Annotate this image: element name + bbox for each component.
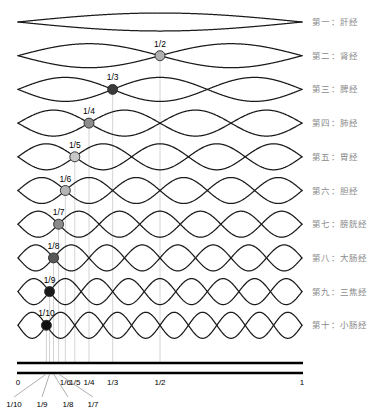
- axis-tick-label-1: 1: [300, 378, 305, 387]
- node-fraction-label-1-4: 1/4: [83, 106, 95, 116]
- node-dot-1-7[interactable]: [54, 219, 64, 229]
- axis-tick-label-0: 0: [16, 378, 21, 387]
- meridian-label-1: 第一：肝经: [312, 18, 359, 27]
- wave-row-1: [18, 13, 302, 31]
- wave-curve-1-upper: [18, 13, 302, 22]
- node-fraction-label-1-8: 1/8: [48, 241, 60, 251]
- node-fraction-label-1-2: 1/2: [154, 39, 166, 49]
- axis-tick-label-1-3: 1/3: [107, 378, 119, 387]
- axis-tick-label-1-4: 1/4: [83, 378, 95, 387]
- node-dot-1-8[interactable]: [49, 253, 59, 263]
- axis-tick-label-1-9: 1/9: [36, 400, 48, 409]
- axis-tick-label-1-7: 1/7: [87, 400, 99, 409]
- meridian-label-5: 第五：胃经: [312, 153, 359, 162]
- node-dot-1-10[interactable]: [41, 320, 51, 330]
- node-dot-1-5[interactable]: [70, 152, 80, 162]
- axis-tick-label-1-2: 1/2: [154, 378, 166, 387]
- meridian-label-7: 第七：膀胱经: [312, 220, 368, 229]
- meridian-label-3: 第三：脾经: [312, 85, 359, 94]
- node-fraction-label-1-5: 1/5: [69, 140, 81, 150]
- node-fraction-label-1-6: 1/6: [59, 174, 71, 184]
- node-fraction-label-1-9: 1/9: [44, 275, 56, 285]
- meridian-label-4: 第四：肺经: [312, 119, 359, 128]
- node-dot-1-2[interactable]: [155, 51, 165, 61]
- node-fraction-label-1-3: 1/3: [107, 72, 119, 82]
- meridian-label-9: 第九：三焦经: [312, 288, 368, 297]
- tick-leader-line-1-9: [42, 374, 50, 397]
- wave-plot-svg: 1/21/31/41/51/61/71/81/91/1001/61/51/41/…: [0, 0, 371, 416]
- node-fraction-label-1-7: 1/7: [53, 207, 65, 217]
- node-dot-1-6[interactable]: [60, 186, 70, 196]
- axis-tick-label-1-8: 1/8: [62, 400, 74, 409]
- meridian-label-10: 第十：小肠经: [312, 321, 368, 330]
- node-dot-1-3[interactable]: [108, 84, 118, 94]
- meridian-label-2: 第二：肾经: [312, 52, 359, 61]
- axis-tick-label-1-10: 1/10: [6, 400, 22, 409]
- meridian-label-8: 第八：大肠经: [312, 254, 368, 263]
- node-fraction-label-1-10: 1/10: [38, 308, 55, 318]
- wave-curve-1-lower: [18, 22, 302, 31]
- node-dot-1-9[interactable]: [45, 287, 55, 297]
- meridian-label-6: 第六：胆经: [312, 187, 359, 196]
- node-dot-1-4[interactable]: [84, 118, 94, 128]
- standing-wave-figure: 1/21/31/41/51/61/71/81/91/1001/61/51/41/…: [0, 0, 371, 416]
